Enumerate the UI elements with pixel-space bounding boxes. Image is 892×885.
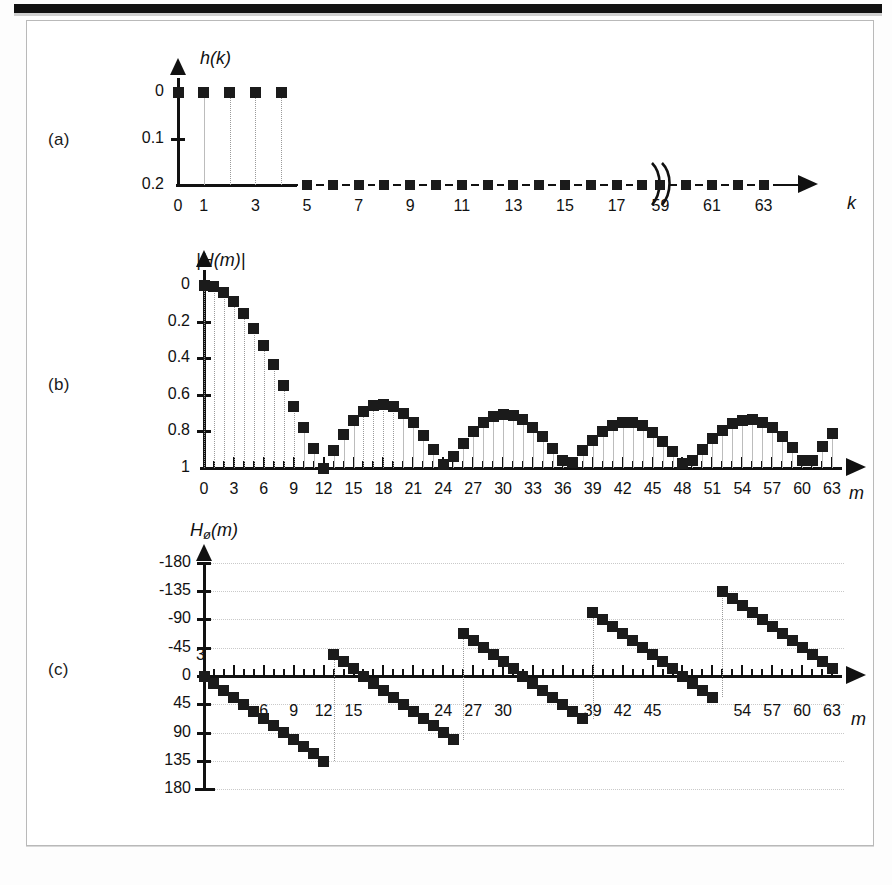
panel-a-stem [230,92,232,185]
panel-a-x-tick-label: 5 [291,197,323,215]
panel-c-marker [827,663,838,674]
panel-b-marker [308,443,319,454]
panel-c-gridline [208,789,844,791]
panel-c-y-arrow [196,544,212,561]
panel-c-x-tick [821,669,823,678]
panel-b-xlabel: m [849,483,864,504]
panel-a-marker [681,180,691,190]
panel-c-x-tick [761,669,763,678]
panel-c-y-tick-label: 45 [129,694,191,712]
panel-b-stem [722,430,723,468]
panel-a-x-tick-label: 9 [394,197,426,215]
panel-c-x-tick [572,669,574,678]
panel-b-marker [258,340,269,351]
panel-a-x-tick-label: 3 [239,197,271,215]
panel-a-marker [328,180,338,190]
panel-b-stem [274,365,276,468]
panel-b-marker [458,438,469,449]
panel-b-marker [268,359,279,370]
panel-c-x-tick [422,669,424,678]
panel-b-y-arrow [196,250,212,267]
panel-b-stem [373,406,375,468]
panel-c-jump-connector [334,655,336,761]
panel-b-x-tick-label: 63 [815,480,849,498]
panel-a-axis-dash [419,184,427,186]
panel-b-stem [264,345,266,468]
panel-b-stem [363,411,365,468]
panel-b-x-tick-label: 54 [725,480,759,498]
panel-b-x-tick-label: 15 [337,480,371,498]
panel-a-marker [405,180,415,190]
panel-c-y-tick-label: 0 [129,666,191,684]
panel-c-jump-connector [463,634,465,740]
panel-b-y-tick-label: 1 [142,458,190,476]
panel-c-y-tick [197,618,211,621]
panel-b-x-tick-label: 48 [665,480,699,498]
panel-b-x-tick-label: 3 [217,480,251,498]
panel-a-marker [431,180,441,190]
panel-c-y-tick-label: 180 [129,779,191,797]
panel-c-y-tick-label: -45 [129,638,191,656]
panel-b-y-tick-label: 0.6 [142,385,190,403]
panel-b-marker [428,444,439,455]
panel-c-x-tick [791,669,793,678]
panel-a-axis-dash [297,184,298,186]
panel-a-x-tick-label: 1 [188,197,220,215]
panel-c-ylabel: Hø(m) [190,520,238,542]
panel-a-marker [173,87,184,98]
panel-a-marker [302,180,312,190]
panel-c-x-tick [662,669,664,678]
panel-b-marker [288,401,299,412]
panel-c-x-tick [811,669,813,678]
panel-c-gridline [208,591,844,593]
panel-c-marker [707,692,718,703]
panel-c-x-tick [632,669,634,678]
panel-b-stem [503,414,504,468]
panel-c-x-tick [771,665,773,678]
panel-a-axis-dash [445,184,453,186]
panel-c-y-tick [197,732,211,735]
panel-b-marker [408,417,419,428]
panel-a-ylabel: h(k) [200,48,231,69]
panel-b-marker [697,444,708,455]
panel-a-xlabel: k [847,193,856,214]
panel-a-marker [759,180,769,190]
panel-c-y-tick-label: -180 [129,553,191,571]
panel-c-x-tick [253,669,255,678]
panel-b-stem [244,313,246,468]
panel-b-y-tick-label: 0.2 [142,312,190,330]
panel-a-x-tick-label: 13 [497,197,529,215]
panel-a-y-tick-label: 0.1 [116,129,164,147]
panel-b-stem [403,413,404,468]
panel-c-x-tick-label: 27 [456,702,490,720]
panel-a-axis-dash [574,184,582,186]
panel-c-y-tick [197,703,211,706]
panel-b-stem [294,406,296,468]
panel-c-x-tick [552,669,554,678]
panel-c-y-tick [197,647,211,650]
panel-a-x-tick-label: 59 [644,197,676,215]
panel-b-stem [742,420,743,468]
panel-b-marker [278,380,289,391]
panel-c-jump-connector [722,591,724,697]
panel-a-x-axis [176,184,297,187]
panel-a-y-tick-label: 0.2 [116,175,164,193]
panel-a-axis-dash [342,184,350,186]
panel-b-marker [318,463,329,474]
panel-b-marker [567,457,578,468]
panel-b-x-tick-label: 36 [546,480,580,498]
panel-c-x-tick [303,669,305,678]
panel-a-marker [457,180,467,190]
panel-b-stem [762,422,763,468]
panel-a-stem [204,92,205,185]
panel-c-x-tick [402,669,404,678]
panel-a-y-tick [171,138,185,141]
panel-c-y-tick-label: -90 [129,609,191,627]
panel-a-marker [508,180,518,190]
panel-a-y-tick-label: 0 [116,82,164,100]
panel-a-marker [250,87,261,98]
panel-b-stem [234,301,236,468]
panel-c-x-tick [622,665,624,678]
panel-c-x-tick-label: 57 [755,702,789,720]
panel-c-x-tick [751,669,753,678]
